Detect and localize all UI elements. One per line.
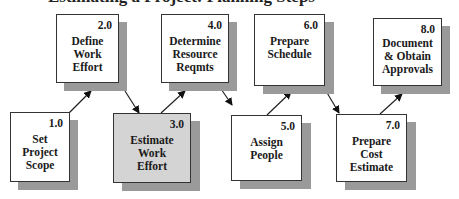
node-box-highlighted: 3.0 Estimate Work Effort (113, 113, 191, 183)
node-box: 6.0 Prepare Schedule (254, 14, 325, 86)
node-label: Set Project Scope (11, 133, 69, 172)
node-label-line: Cost (337, 148, 406, 161)
node-label-line: Determine (162, 35, 228, 48)
node-label-line: Prepare (337, 135, 406, 148)
node-label-line: Reqmts (162, 61, 228, 74)
node-label-line: Effort (57, 61, 118, 74)
node-label-line: Estimate (114, 134, 190, 147)
arrow-2-to-3 (125, 91, 139, 113)
node-label: Determine Resource Reqmts (162, 35, 228, 74)
arrow-6-to-7 (326, 91, 339, 113)
node-label: Define Work Effort (57, 35, 118, 74)
node-box: 7.0 Prepare Cost Estimate (336, 114, 407, 182)
arrow-5-to-6 (267, 92, 291, 115)
node-box: 2.0 Define Work Effort (56, 14, 119, 83)
node-number: 3.0 (170, 118, 184, 130)
node-box: 4.0 Determine Resource Reqmts (161, 14, 229, 83)
node-box: 1.0 Set Project Scope (10, 112, 70, 182)
node-label: Estimate Work Effort (114, 134, 190, 173)
node-label-line: Define (57, 35, 118, 48)
node-label-line: Resource (162, 48, 228, 61)
node-label: Prepare Schedule (255, 35, 324, 61)
arrow-3-to-4 (161, 91, 185, 113)
node-label-line: People (232, 149, 301, 162)
node-label-line: Prepare (255, 35, 324, 48)
node-label: Document & Obtain Approvals (374, 37, 441, 76)
node-label-line: Estimate (337, 161, 406, 174)
node-label-line: Schedule (255, 48, 324, 61)
arrow-1-to-2 (69, 91, 91, 113)
node-label-line: Scope (11, 159, 69, 172)
node-label-line: Document (374, 37, 441, 50)
node-box: 8.0 Document & Obtain Approvals (373, 18, 442, 86)
node-label-line: Project (11, 146, 69, 159)
node-label-line: Effort (114, 160, 190, 173)
node-label: Prepare Cost Estimate (337, 135, 406, 174)
node-label-line: Approvals (374, 63, 441, 76)
node-number: 2.0 (98, 19, 112, 31)
node-number: 7.0 (386, 119, 400, 131)
node-number: 6.0 (304, 19, 318, 31)
node-number: 5.0 (281, 120, 295, 132)
arrow-7-to-8 (380, 94, 402, 114)
node-label-line: Work (114, 147, 190, 160)
node-number: 4.0 (208, 19, 222, 31)
node-label-line: & Obtain (374, 50, 441, 63)
node-label-line: Set (11, 133, 69, 146)
node-label: Assign People (232, 136, 301, 162)
node-box: 5.0 Assign People (231, 115, 302, 181)
node-number: 8.0 (421, 23, 435, 35)
node-label-line: Assign (232, 136, 301, 149)
node-label-line: Work (57, 48, 118, 61)
node-number: 1.0 (49, 117, 63, 129)
